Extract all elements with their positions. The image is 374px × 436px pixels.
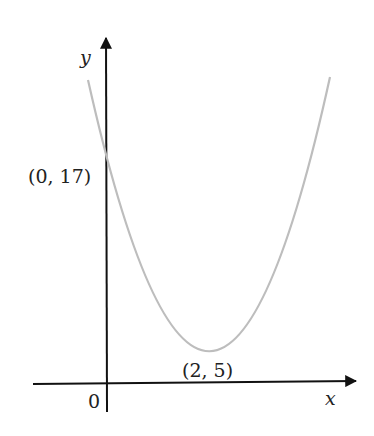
y-axis	[106, 38, 107, 412]
x-axis-label: x	[325, 387, 336, 409]
parabola-curve	[88, 77, 330, 351]
vertex-label: (2, 5)	[182, 359, 233, 381]
origin-label: 0	[88, 390, 100, 412]
parabola-graph: y x 0 (0, 17) (2, 5)	[0, 0, 374, 436]
y-axis-label: y	[79, 46, 91, 68]
x-axis	[33, 381, 356, 384]
y-intercept-label: (0, 17)	[28, 165, 91, 187]
